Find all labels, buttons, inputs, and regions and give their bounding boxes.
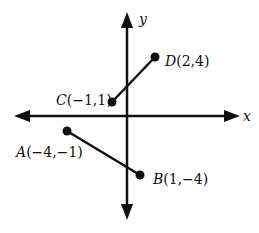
point-b	[136, 171, 145, 180]
y-axis-up-arrow-icon	[121, 12, 133, 28]
point-b-label: B(1,−4)	[152, 171, 208, 187]
x-axis-right-arrow-icon	[224, 110, 240, 122]
x-axis-label: x	[243, 108, 251, 124]
y-axis-label: y	[138, 11, 148, 27]
x-axis-left-arrow-icon	[14, 110, 30, 122]
segment-cd	[108, 53, 160, 107]
y-axis-down-arrow-icon	[121, 204, 133, 220]
coordinate-plane: x y D(2,4) C(−1,1) A(−4,−1) B(1,−4)	[0, 0, 259, 233]
point-d-label: D(2,4)	[164, 53, 209, 69]
point-a-label: A(−4,−1)	[14, 144, 83, 160]
point-a	[63, 127, 72, 136]
point-c-label: C(−1,1)	[56, 92, 112, 108]
point-d	[151, 53, 160, 62]
